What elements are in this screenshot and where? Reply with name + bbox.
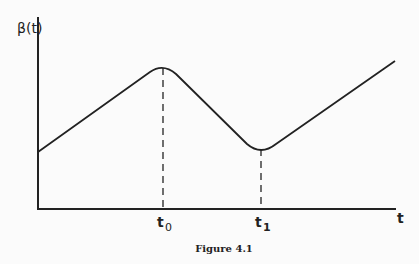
- svg-text:1: 1: [263, 221, 271, 234]
- figure-caption: Figure 4.1: [195, 243, 253, 254]
- tick-label-t0: t 0: [157, 214, 172, 234]
- svg-text:t: t: [255, 214, 262, 230]
- tick-label-t1: t 1: [255, 214, 271, 234]
- beta-curve: [38, 61, 395, 152]
- y-axis-label: β(t): [17, 20, 42, 36]
- x-axis-label: t: [397, 210, 404, 226]
- figure: β(t) t t 0 t 1 Figure 4.1: [0, 0, 419, 264]
- svg-text:0: 0: [165, 221, 172, 234]
- svg-text:t: t: [157, 214, 164, 230]
